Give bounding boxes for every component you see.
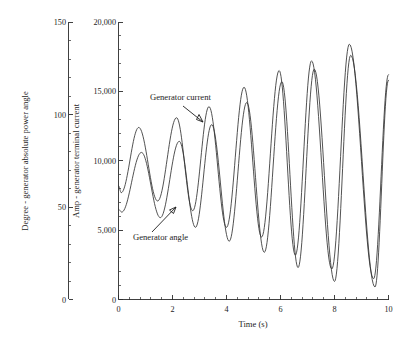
x-tick-label: 6 <box>278 305 282 314</box>
left-outer-axis: 050100150 Degree - generator absolute po… <box>20 18 73 305</box>
x-tick-label: 0 <box>116 305 120 314</box>
y-tick-label: 15,000 <box>93 87 116 96</box>
svg-text:Generator current: Generator current <box>150 92 211 102</box>
chart-canvas: 050100150 Degree - generator absolute po… <box>0 0 404 346</box>
y-tick-label: 5,000 <box>98 226 116 235</box>
chart-figure: 050100150 Degree - generator absolute po… <box>0 0 404 346</box>
annotation-generator-angle: Generator angle <box>133 207 188 242</box>
plot-series-group <box>119 44 389 287</box>
x-tick-label: 10 <box>384 305 392 314</box>
y-tick-label: 150 <box>54 18 66 27</box>
left-inner-axis: 05,00010,00015,00020,000 Amp - generator… <box>71 18 123 305</box>
bottom-axis-title: Time (s) <box>238 319 267 329</box>
series-generator-current <box>119 44 389 278</box>
y-tick-label: 50 <box>58 203 66 212</box>
y-tick-label: 0 <box>112 296 116 305</box>
x-tick-label: 2 <box>170 305 174 314</box>
x-tick-label: 4 <box>224 305 228 314</box>
left-inner-axis-title: Amp - generator terminal current <box>71 103 81 218</box>
y-tick-label: 100 <box>54 111 66 120</box>
left-outer-axis-title: Degree - generator absolute power angle <box>20 91 30 231</box>
y-tick-label: 10,000 <box>93 157 116 166</box>
y-tick-label: 0 <box>62 296 66 305</box>
bottom-axis: 0246810 Time (s) <box>116 295 392 329</box>
svg-text:Generator angle: Generator angle <box>133 232 188 242</box>
y-tick-label: 20,000 <box>93 18 116 27</box>
x-tick-label: 8 <box>332 305 336 314</box>
annotation-generator-current: Generator current <box>150 92 211 122</box>
